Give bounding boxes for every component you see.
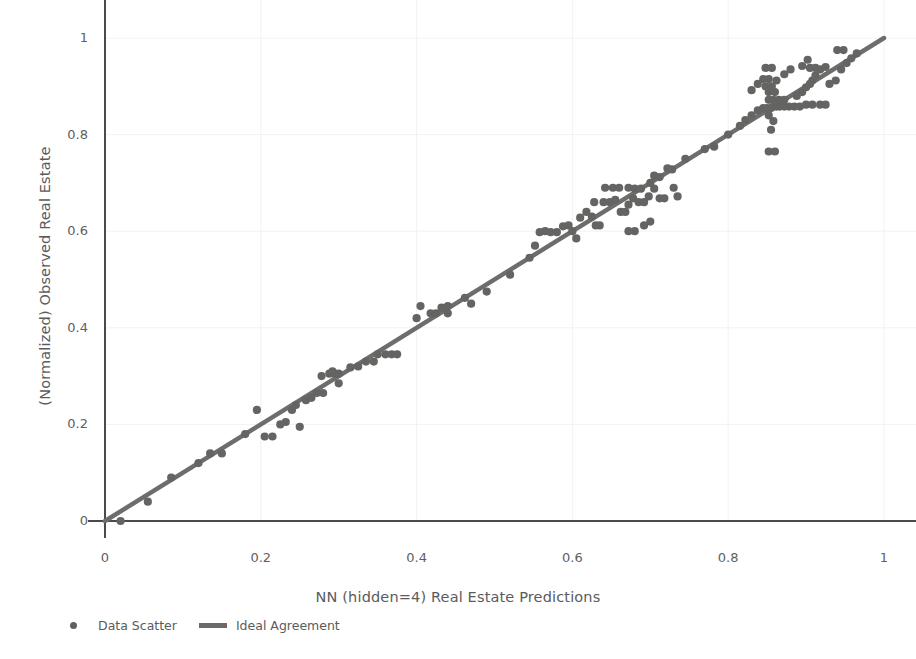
scatter-plot-canvas [0,0,916,659]
x-tick-label: 1 [854,550,914,565]
legend-label-data-scatter: Data Scatter [98,618,177,633]
x-tick-label: 0.6 [542,550,602,565]
legend-item-ideal-agreement[interactable]: Ideal Agreement [199,618,340,633]
gridlines [105,0,916,521]
x-axis-title: NN (hidden=4) Real Estate Predictions [0,589,916,605]
line-marker-icon [199,623,227,628]
x-tick-label: 0.2 [231,550,291,565]
dot-marker-icon [70,622,77,629]
x-tick-label: 0 [75,550,135,565]
axis-lines [88,0,916,538]
chart-legend: Data Scatter Ideal Agreement [70,613,362,637]
legend-item-data-scatter[interactable]: Data Scatter [70,618,177,633]
legend-label-ideal-agreement: Ideal Agreement [236,618,340,633]
chart-figure: 00.20.40.60.81 00.20.40.60.81 NN (hidden… [0,0,916,659]
y-axis-title: (Normalized) Observed Real Estate [37,26,53,526]
x-tick-label: 0.8 [698,550,758,565]
x-tick-label: 0.4 [387,550,447,565]
